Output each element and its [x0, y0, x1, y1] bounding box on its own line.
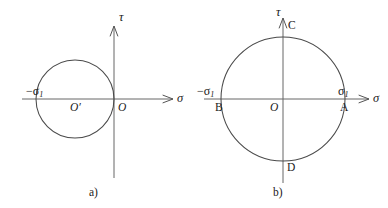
point-b-label-b: B — [215, 102, 223, 114]
point-a-label-b: A — [340, 102, 348, 114]
minus-sigma1-label-a: −σ1 — [26, 85, 43, 99]
minus-sigma1-base-a: −σ — [26, 84, 39, 98]
minus-sigma1-base-b: −σ — [197, 84, 210, 98]
circle-center-label-a: O′ — [70, 102, 81, 114]
sigma-axis-label-a: σ — [177, 92, 183, 105]
origin-label-a: O — [118, 102, 126, 114]
diagram-panel-a: τ σ −σ1 O′ O a) — [0, 0, 194, 208]
minus-sigma1-label-b: −σ1 — [197, 85, 214, 99]
sigma-axis-label-b: σ — [373, 92, 379, 105]
minus-sigma1-subscript-a: 1 — [39, 90, 43, 99]
point-c-label-b: C — [288, 20, 296, 32]
minus-sigma1-subscript-b: 1 — [210, 90, 214, 99]
diagram-panel-b: τ σ −σ1 σ1 A B C D O b) — [194, 0, 388, 208]
tau-axis-label-b: τ — [276, 6, 280, 19]
panel-a-caption: a) — [89, 186, 98, 198]
sigma1-label-b: σ1 — [338, 85, 349, 99]
tau-axis-label-a: τ — [119, 11, 123, 24]
figure-root: τ σ −σ1 O′ O a) τ σ — [0, 0, 388, 208]
point-d-label-b: D — [287, 162, 295, 174]
panel-a-graphics — [0, 0, 194, 208]
sigma1-subscript-b: 1 — [344, 90, 348, 99]
origin-label-b: O — [270, 102, 278, 114]
circle-center-prime-a: ′ — [78, 101, 81, 113]
panel-b-caption: b) — [273, 186, 283, 198]
